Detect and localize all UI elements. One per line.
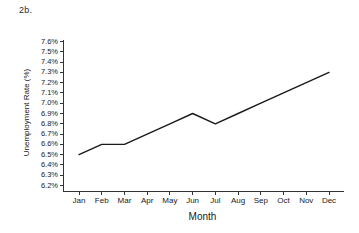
line-chart-plot [0,0,359,233]
series-line-unemployment-rate [79,72,329,154]
x-axis [63,191,344,195]
data-series-group [79,72,329,154]
figure-container: 2b. Unemployment Rate (%) Month 7.6%7.5%… [0,0,359,233]
y-axis [60,40,64,192]
